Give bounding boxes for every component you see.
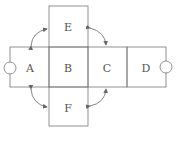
face-label-f: F	[64, 102, 72, 115]
fold-arrow-a-e-icon	[31, 29, 47, 46]
svg-text:D: D	[142, 62, 151, 75]
face-label-d: D	[142, 62, 151, 75]
cube-net-diagram: E A B C D F	[0, 0, 176, 151]
fold-arrow-f-c-icon	[90, 89, 106, 106]
face-label-b: B	[64, 62, 72, 75]
face-label-a: A	[25, 62, 35, 75]
fold-arrow-a-f-icon	[31, 89, 47, 107]
face-label-c: C	[103, 62, 111, 75]
svg-text:E: E	[64, 21, 72, 34]
svg-text:A: A	[25, 62, 35, 75]
left-tab-circle-icon	[4, 62, 16, 74]
svg-text:F: F	[64, 102, 72, 115]
right-tab-circle-icon	[160, 61, 172, 73]
svg-text:B: B	[64, 62, 72, 75]
svg-text:C: C	[103, 62, 111, 75]
fold-arrow-e-c-icon	[90, 28, 106, 45]
face-label-e: E	[64, 21, 72, 34]
